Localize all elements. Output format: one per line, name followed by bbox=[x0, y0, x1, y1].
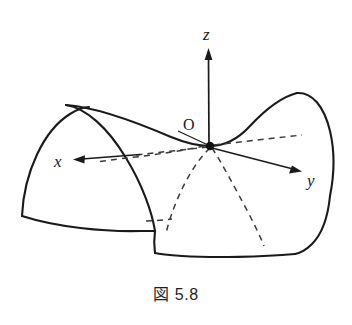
hidden-back-rim-right bbox=[212, 148, 264, 246]
x-axis-line bbox=[82, 155, 140, 159]
left-panel-bottom-edge bbox=[22, 216, 155, 231]
y-axis: y bbox=[212, 148, 315, 190]
z-axis-line bbox=[209, 58, 210, 146]
z-axis-label: z bbox=[202, 25, 210, 44]
origin-label: O bbox=[183, 116, 195, 133]
left-lobe-front-silhouette bbox=[66, 105, 155, 231]
right-outer-edge bbox=[295, 196, 330, 254]
y-axis-arrowhead bbox=[289, 166, 302, 174]
z-axis-arrowhead bbox=[205, 48, 213, 60]
figure-container: z x y O 図 5.8 bbox=[0, 0, 352, 325]
right-panel-left-fold bbox=[154, 231, 155, 253]
saddle-top-ridge bbox=[66, 93, 297, 146]
y-axis-line bbox=[212, 148, 293, 169]
origin-dot bbox=[206, 142, 214, 150]
x-axis-label: x bbox=[53, 152, 62, 171]
right-panel-bottom-edge bbox=[155, 253, 295, 257]
x-axis-hidden-segment bbox=[136, 147, 208, 155]
hidden-axis-guide-right bbox=[214, 135, 302, 145]
hidden-lower-fold-segment bbox=[146, 219, 172, 221]
hidden-back-rim-left bbox=[166, 148, 210, 234]
figure-caption: 図 5.8 bbox=[0, 281, 352, 305]
x-axis-arrowhead bbox=[73, 155, 85, 163]
origin-leader-line bbox=[178, 131, 208, 145]
z-axis: z bbox=[202, 25, 212, 146]
right-lobe-crest bbox=[297, 93, 333, 196]
y-axis-label: y bbox=[305, 171, 315, 190]
saddle-surface-diagram: z x y O bbox=[0, 0, 352, 325]
